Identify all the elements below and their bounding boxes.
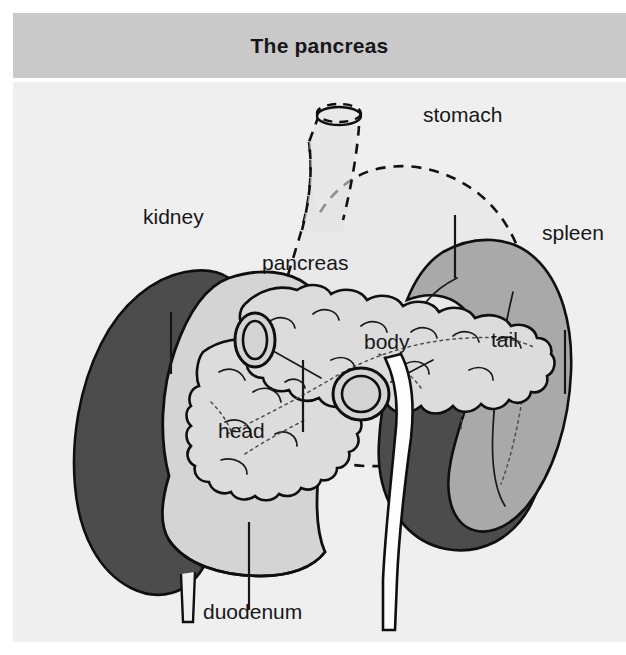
vessel-ring-lower-inner: [342, 376, 380, 412]
label-spleen: spleen: [542, 221, 604, 244]
label-tail: tail: [491, 328, 518, 351]
esophagus-rim-outer: [317, 107, 361, 125]
label-body: body: [364, 330, 410, 353]
anatomy-diagram: kidney stomach pancreas spleen body tail…: [13, 82, 626, 642]
duodenum-distal-tube: [181, 572, 195, 622]
label-duodenum: duodenum: [203, 600, 302, 623]
vessel-ring-upper-inner: [243, 321, 267, 359]
label-pancreas: pancreas: [262, 251, 348, 274]
figure-illustration-panel: kidney stomach pancreas spleen body tail…: [13, 82, 626, 642]
pancreas-figure: The pancreas: [0, 0, 626, 655]
figure-title-bar: The pancreas: [13, 13, 626, 78]
label-kidney: kidney: [143, 205, 204, 228]
page-title: The pancreas: [251, 34, 389, 58]
label-stomach: stomach: [423, 103, 502, 126]
label-head: head: [218, 419, 265, 442]
